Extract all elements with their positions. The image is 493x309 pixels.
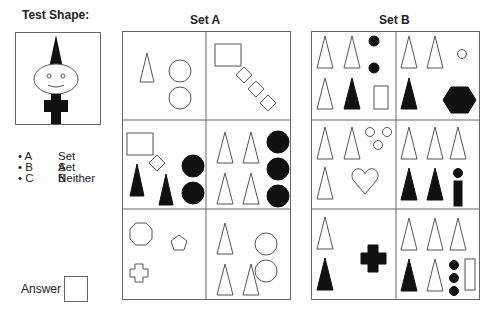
set-a-title: Set A [190,13,220,27]
set-b-title: Set B [379,13,410,27]
set-a-grid [122,31,291,300]
answer-label: Answer [21,282,61,296]
test-shape-figure [15,32,101,125]
option-c[interactable]: • CNeither [18,173,34,184]
set-b-grid [311,31,480,300]
answer-input[interactable] [64,276,88,302]
answer-options: • ASet A • BSet B • CNeither [18,151,34,184]
test-shape-title: Test Shape: [22,8,89,22]
